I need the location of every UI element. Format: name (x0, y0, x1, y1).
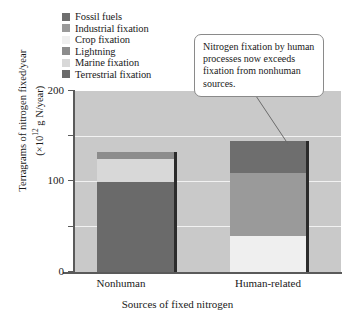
y-tick-label-0: 0 (30, 266, 64, 277)
callout-text: Nitrogen fixation by human processes now… (203, 41, 314, 89)
x-axis-title: Sources of fixed nitrogen (0, 298, 355, 310)
legend-item-industrial-fixation: Industrial fixation (62, 23, 202, 35)
x-axis-line (63, 272, 342, 274)
y-axis-title-line2: (×1012 g N/year) (29, 27, 46, 215)
legend-swatch-icon (62, 47, 70, 55)
legend-item-marine-fixation: Marine fixation (62, 57, 202, 69)
legend-swatch-icon (62, 36, 70, 44)
bar-human-related-shadow (306, 141, 309, 272)
bar-segment-marine-fixation (97, 159, 174, 182)
y-axis-title-line1: Terragrams of nitrogen fixed/year (17, 50, 28, 192)
chart-legend: Fossil fuels Industrial fixation Crop fi… (62, 11, 202, 80)
bar-segment-terrestrial-fixation (97, 182, 174, 273)
callout-box: Nitrogen fixation by human processes now… (194, 34, 324, 97)
legend-swatch-icon (62, 13, 70, 21)
y-tick-150 (68, 135, 74, 136)
legend-label: Crop fixation (75, 34, 130, 46)
bar-segment-crop-fixation (230, 236, 306, 272)
y-axis-line (73, 90, 75, 273)
legend-item-lightning: Lightning (62, 46, 202, 58)
legend-label: Lightning (75, 46, 116, 58)
legend-item-fossil-fuels: Fossil fuels (62, 11, 202, 23)
legend-swatch-icon (62, 59, 70, 67)
y-tick-100 (68, 180, 74, 181)
legend-label: Fossil fuels (75, 11, 122, 23)
y-axis-title: Terragrams of nitrogen fixed/year (×1012… (16, 27, 46, 215)
nitrogen-fixation-chart: Fossil fuels Industrial fixation Crop fi… (0, 0, 355, 317)
bar-nonhuman-shadow (174, 152, 177, 272)
bar-human-related (230, 141, 306, 272)
legend-swatch-icon (62, 24, 70, 32)
legend-item-crop-fixation: Crop fixation (62, 34, 202, 46)
y-tick-200 (68, 90, 74, 91)
x-category-label-human-related: Human-related (203, 277, 333, 289)
legend-item-terrestrial-fixation: Terrestrial fixation (62, 69, 202, 81)
bar-nonhuman (97, 152, 174, 272)
y-tick-0 (68, 271, 74, 272)
legend-label: Industrial fixation (75, 23, 149, 35)
gridline-150 (75, 136, 341, 137)
bar-segment-lightning (97, 152, 174, 159)
legend-label: Terrestrial fixation (75, 69, 151, 81)
y-axis-title-exponent: 12 (31, 128, 40, 136)
x-category-label-nonhuman: Nonhuman (56, 277, 186, 289)
legend-label: Marine fixation (75, 57, 139, 69)
bar-segment-fossil-fuels (230, 141, 306, 173)
plot-area (75, 91, 341, 272)
y-tick-50 (68, 226, 74, 227)
bar-segment-industrial-fixation (230, 173, 306, 236)
legend-swatch-icon (62, 70, 70, 78)
